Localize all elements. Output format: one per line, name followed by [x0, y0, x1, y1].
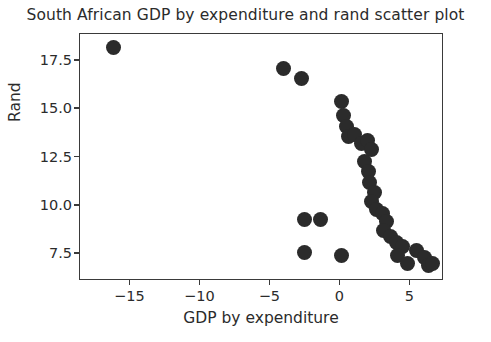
x-axis-tick-mark — [269, 280, 271, 285]
y-axis-tick-label: 15.0 — [40, 100, 72, 116]
plot-area — [79, 33, 443, 280]
y-axis-tick-mark — [74, 107, 79, 109]
scatter-point — [400, 256, 415, 271]
y-axis-tick-label: 17.5 — [40, 52, 72, 68]
x-axis-tick-mark — [199, 280, 201, 285]
x-axis-tick-mark — [409, 280, 411, 285]
x-axis-tick-label: −5 — [259, 288, 280, 304]
scatter-point — [334, 248, 349, 263]
chart-title: South African GDP by expenditure and ran… — [0, 6, 491, 24]
x-axis-tick-label: 5 — [405, 288, 414, 304]
scatter-point — [294, 71, 309, 86]
scatter-point — [106, 40, 121, 55]
scatter-point — [297, 212, 312, 227]
y-axis-tick-label: 10.0 — [40, 197, 72, 213]
x-axis-tick-label: −10 — [184, 288, 215, 304]
y-axis-tick-label: 12.5 — [40, 149, 72, 165]
y-axis-tick-mark — [74, 252, 79, 254]
scatter-point — [313, 212, 328, 227]
y-axis-tick-mark — [74, 204, 79, 206]
y-axis-tick-mark — [74, 59, 79, 61]
x-axis-label: GDP by expenditure — [79, 309, 443, 327]
y-axis-label: Rand — [6, 82, 24, 122]
y-axis-tick-label: 7.5 — [49, 245, 72, 261]
scatter-plot-figure: South African GDP by expenditure and ran… — [0, 0, 491, 342]
scatter-point — [297, 245, 312, 260]
scatter-point — [276, 61, 291, 76]
scatter-point — [334, 94, 349, 109]
x-axis-tick-mark — [129, 280, 131, 285]
x-axis-tick-mark — [339, 280, 341, 285]
x-axis-tick-label: −15 — [114, 288, 145, 304]
scatter-point — [425, 256, 440, 271]
y-axis-tick-mark — [74, 156, 79, 158]
x-axis-tick-label: 0 — [335, 288, 344, 304]
